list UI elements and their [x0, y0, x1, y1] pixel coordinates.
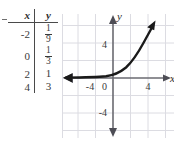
table-of-values: x y -2 1 9 0 1 3 — [0, 0, 60, 144]
fraction-numerator: 1 — [45, 24, 52, 34]
y-tick-label-4: 4 — [102, 39, 107, 50]
x-axis-label: x — [169, 72, 174, 84]
y-axis-label: y — [116, 12, 122, 22]
y-axis-bottom-arrow — [109, 128, 117, 137]
fraction: 1 3 — [45, 46, 52, 66]
y-tick-label-negative-4: -4 — [99, 107, 107, 118]
figure-container: x y -2 1 9 0 1 3 — [0, 0, 180, 144]
cell-y: 3 — [34, 80, 58, 93]
graph-svg: -4 4 0 4 -4 x y — [62, 12, 174, 140]
cell-x: -2 — [8, 23, 34, 46]
table-row: 2 1 — [8, 67, 58, 80]
column-header-x: x — [8, 9, 34, 23]
fraction: 1 9 — [45, 24, 52, 44]
table-row: 0 1 3 — [8, 45, 58, 67]
x-tick-label-4: 4 — [146, 81, 151, 92]
table-header-row: x y — [8, 9, 58, 23]
cell-x: 2 — [8, 67, 34, 80]
cell-x: 4 — [8, 80, 34, 93]
table-row: 4 3 — [8, 80, 58, 93]
fraction-numerator: 1 — [45, 46, 52, 56]
fraction-denominator: 3 — [45, 56, 52, 67]
column-header-y: y — [34, 9, 58, 23]
cell-y: 1 9 — [34, 23, 58, 46]
origin-label: 0 — [102, 81, 107, 92]
curve-start-arrow — [63, 74, 72, 83]
leading-dash-mark — [2, 19, 7, 20]
exponential-curve — [66, 28, 152, 78]
cell-y: 1 — [34, 67, 58, 80]
table-row: -2 1 9 — [8, 23, 58, 46]
coordinate-graph: -4 4 0 4 -4 x y — [62, 12, 174, 140]
fraction-denominator: 9 — [45, 34, 52, 45]
cell-y: 1 3 — [34, 45, 58, 67]
cell-x: 0 — [8, 45, 34, 67]
x-tick-label-negative-4: -4 — [86, 81, 94, 92]
y-axis-top-arrow — [109, 15, 117, 24]
value-table: x y -2 1 9 0 1 3 — [8, 9, 58, 93]
